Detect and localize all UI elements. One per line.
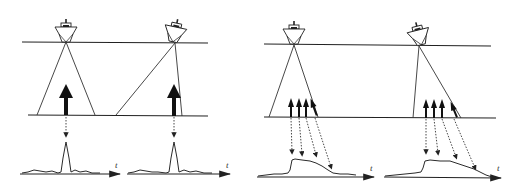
seafloor-line xyxy=(28,115,208,116)
panel-wide-tilted: t xyxy=(384,20,501,178)
ship-icon xyxy=(162,17,188,44)
ship-icon xyxy=(283,21,305,44)
axis-label-t: t xyxy=(370,163,373,173)
time-axis xyxy=(384,177,501,178)
sea-surface-line xyxy=(22,42,208,43)
echo-arrows-icon xyxy=(423,99,460,119)
axis-label-t: t xyxy=(115,160,118,170)
echo-arrow-icon xyxy=(59,84,73,115)
ship-icon xyxy=(405,20,432,48)
panel-narrow-tilted: t xyxy=(116,17,230,174)
panel-narrow-beam-group: t t xyxy=(20,17,230,174)
sonar-beam-diagram: t t xyxy=(0,0,521,193)
axis-label-t: t xyxy=(497,163,500,173)
axis-label-t: t xyxy=(226,160,229,170)
ship-icon xyxy=(55,19,77,42)
panel-wide-beam-group: t t xyxy=(257,20,501,178)
echo-arrow-icon xyxy=(167,84,181,116)
